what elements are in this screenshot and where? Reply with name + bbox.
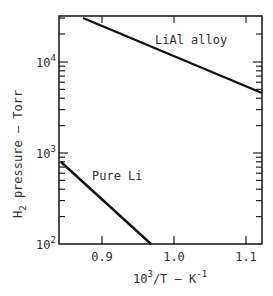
svg-text:104: 104	[36, 53, 56, 70]
x-tick-labels: 0.9 1.0 1.1	[91, 250, 257, 264]
x-ticks	[102, 16, 246, 244]
series-lial-alloy-line	[83, 18, 262, 93]
y-tick-labels: 104 103 102	[36, 53, 56, 252]
svg-text:102: 102	[36, 235, 56, 252]
series-label-lial: LiAl alloy	[155, 33, 227, 47]
x-axis-title: 103/T — K-1	[133, 269, 207, 286]
y-ticks-left	[59, 18, 68, 217]
y-ticks-right	[253, 34, 262, 217]
chart: LiAl alloy Pure Li 104 103 102 0.9 1.0 1…	[0, 0, 273, 296]
svg-text:103: 103	[36, 144, 56, 161]
svg-text:1.0: 1.0	[163, 250, 185, 264]
series-label-pure-li: Pure Li	[92, 169, 143, 183]
svg-text:0.9: 0.9	[91, 250, 113, 264]
y-axis-title: H2 pressure — Torr	[11, 90, 28, 218]
svg-text:1.1: 1.1	[235, 250, 257, 264]
